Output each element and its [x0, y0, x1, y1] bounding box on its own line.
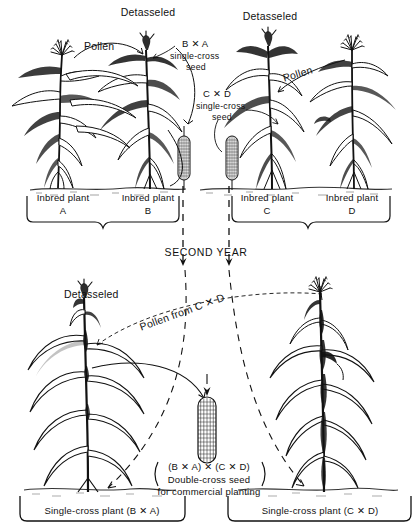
inbred-plant-c-letter: C: [263, 205, 270, 216]
single-cross-plant-cd-caption: Single-cross plant (C ✕ D): [262, 505, 379, 516]
ground-left: [30, 188, 186, 190]
cob-b-times-a: [178, 126, 190, 190]
inbred-plant-d: [310, 35, 396, 189]
diagram-artwork: [0, 0, 416, 529]
seed-callout-ba-line1: B ✕ A: [182, 38, 208, 49]
callout-curve-cd: [246, 110, 278, 124]
inbred-plant-a: [12, 40, 104, 189]
cob-c-times-d: [226, 136, 238, 190]
inbred-plant-c-caption: Inbred plant: [241, 192, 294, 203]
seed-to-plant-cd-curve: [229, 270, 304, 486]
double-cross-seed-line3: for commercial planting: [158, 486, 261, 497]
detasseled-label-b: Detasseled: [121, 6, 176, 18]
single-cross-plant-ba-caption: Single-cross plant (B ✕ A): [44, 505, 159, 516]
second-year-label: SECOND YEAR: [165, 246, 248, 258]
inbred-plant-b-letter: B: [145, 205, 152, 216]
detasseled-label-c: Detasseled: [243, 10, 298, 22]
figure-canvas: Detasseled Pollen B ✕ A single-cross see…: [0, 0, 416, 529]
single-cross-plant-cd: [270, 277, 374, 492]
seed-callout-ba-line3: seed: [186, 62, 206, 72]
inbred-plant-a-caption: Inbred plant: [37, 192, 90, 203]
double-cross-seed-line1: (B ✕ A) ✕ (C ✕ D): [168, 461, 250, 472]
inbred-plant-b-caption: Inbred plant: [122, 192, 175, 203]
pollen-label-left: Pollen: [84, 40, 114, 52]
ground-second-right: [238, 488, 398, 490]
seed-callout-ba-line2: single-cross: [170, 51, 219, 61]
cob-double-cross: [198, 397, 216, 463]
seed-to-plant-ba-curve: [108, 270, 186, 488]
single-cross-plant-ba: [28, 279, 144, 492]
detasseled-label-second-year: Detasseled: [64, 288, 119, 300]
inbred-plant-d-letter: D: [348, 205, 355, 216]
inbred-plant-d-caption: Inbred plant: [326, 192, 379, 203]
inbred-plant-a-letter: A: [60, 205, 67, 216]
seed-callout-cd-line2: single-cross: [196, 101, 245, 111]
seed-callout-cd-line3: seed: [212, 112, 232, 122]
double-cross-seed-line2: Double-cross seed: [168, 474, 251, 485]
seed-callout-cd-line1: C ✕ D: [203, 88, 231, 99]
ground-second-left: [24, 488, 176, 490]
